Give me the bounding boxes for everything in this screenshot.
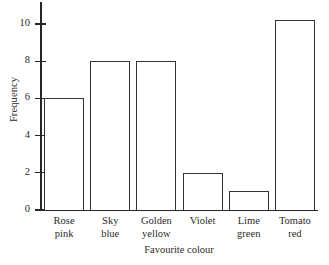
category-label-line: Lime [226, 215, 272, 228]
category-label-line: blue [87, 228, 133, 241]
category-label: Goldenyellow [133, 215, 179, 240]
y-axis-line [40, 2, 42, 211]
category-label-line: Golden [133, 215, 179, 228]
y-tick-8 [35, 61, 46, 62]
category-label-line: Sky [87, 215, 133, 228]
y-tick-label: 10 [4, 18, 30, 29]
category-label-line: Tomato [272, 215, 318, 228]
bar-chart: Frequency 0246810 RosepinkSkyblueGoldeny… [0, 0, 329, 265]
bar [183, 173, 223, 210]
category-label-line: green [226, 228, 272, 241]
category-label-line: Rose [41, 215, 87, 228]
category-label-line: red [272, 228, 318, 241]
y-tick-label: 2 [4, 167, 30, 178]
bar [44, 98, 84, 210]
category-label: Limegreen [226, 215, 272, 240]
bar [136, 61, 176, 210]
y-tick-10 [35, 23, 46, 24]
category-label: Tomatored [272, 215, 318, 240]
category-label-line: yellow [133, 228, 179, 241]
category-label-line: pink [41, 228, 87, 241]
y-tick-label: 8 [4, 55, 30, 66]
category-label: Skyblue [87, 215, 133, 240]
bar [229, 191, 269, 210]
y-tick-label: 0 [4, 204, 30, 215]
bar [275, 20, 315, 210]
category-label: Violet [180, 215, 226, 228]
y-tick-label: 4 [4, 130, 30, 141]
category-label-line: Violet [180, 215, 226, 228]
bar [90, 61, 130, 210]
category-label: Rosepink [41, 215, 87, 240]
x-axis-title: Favourite colour [40, 244, 318, 255]
y-tick-label: 6 [4, 92, 30, 103]
